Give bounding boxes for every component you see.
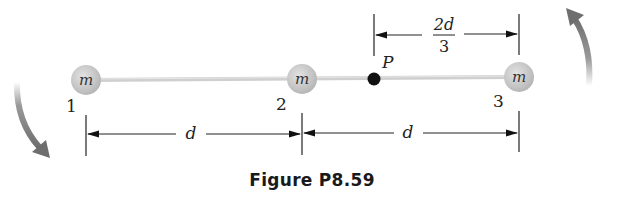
mass-3-label: m: [512, 68, 526, 86]
mass-2-label: m: [295, 70, 309, 88]
dimension-d-right: d: [403, 122, 414, 142]
mass-2: m: [287, 64, 317, 94]
mass-1-index: 1: [66, 96, 77, 116]
figure-caption: Figure P8.59: [0, 170, 624, 190]
mass-2-index: 2: [276, 94, 287, 114]
dimension-d-left: d: [186, 123, 197, 143]
mass-1: m: [71, 65, 101, 95]
point-p-dot: [368, 73, 381, 86]
lower-dimension: [86, 111, 519, 156]
mass-3-index: 3: [493, 91, 504, 111]
rotation-arrow-left-icon: [17, 82, 50, 158]
dimension-2d-denominator: 3: [439, 37, 449, 56]
mass-1-label: m: [79, 71, 93, 89]
dimension-2d-numerator: 2d: [433, 15, 454, 34]
rotation-arrow-right-icon: [566, 8, 589, 86]
mass-3: m: [504, 62, 534, 92]
point-p-label: P: [381, 52, 394, 72]
